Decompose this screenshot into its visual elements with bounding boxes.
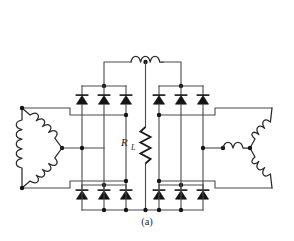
left-upper-diode-group [76,84,133,104]
right-ac-feed-upper [157,108,272,117]
resistor-letter: R [120,136,128,148]
wye-connected-secondary [223,108,272,188]
top-left-riser [104,62,131,86]
diode-r3 [197,95,210,104]
right-phase-columns [159,104,203,210]
diode-l1 [76,95,89,104]
delta-connected-secondary [16,106,62,190]
diode-l2 [98,95,111,104]
circuit-figure: R L [0,0,294,241]
diode-r2 [175,95,188,104]
top-right-riser [163,62,181,86]
diode-l3 [120,95,133,104]
left-ac-feed-middle [60,146,104,150]
circuit-diagram: R L [0,0,294,241]
right-ac-feed-middle [201,146,225,150]
diode-r1 [153,95,166,104]
load-resistor-label: R L [120,136,136,152]
load-resistor [140,127,150,210]
interphase-center-tap [143,60,147,127]
right-upper-diode-group [153,84,210,104]
left-phase-columns [82,104,126,210]
right-ac-feed-lower [157,179,272,188]
resistor-subscript: L [130,143,136,152]
bottom-return-rail [82,208,203,212]
figure-caption: (a) [0,216,294,227]
